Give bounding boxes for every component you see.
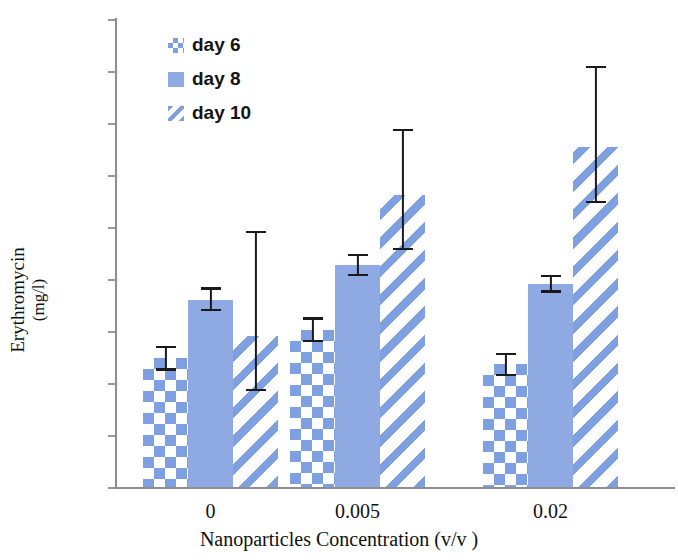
error-bar-cap-bottom (348, 274, 368, 276)
y-axis-title: Erythromycin (mg/l) (0, 150, 56, 450)
error-bar-day-8-0 (211, 287, 212, 311)
legend-item-label: day 6 (192, 34, 241, 56)
error-bar-day-10-0 (256, 231, 257, 391)
y-axis-tick (108, 383, 115, 385)
y-axis-tick (108, 123, 115, 125)
x-axis-tick-label-0.005: 0.005 (283, 500, 433, 523)
error-bar-cap-top (201, 287, 221, 289)
chart-figure: Erythromycin (mg/l) Nanoparticles Concen… (0, 0, 678, 560)
y-axis-title-line2: (mg/l) (29, 247, 49, 353)
error-bar-stem (255, 231, 257, 391)
error-bar-cap-top (496, 353, 516, 355)
legend-item-day-6: day 6 (168, 28, 308, 62)
bar-day-6-0.005 (290, 330, 335, 487)
x-axis-title: Nanoparticles Concentration (v/v ) (0, 528, 678, 551)
error-bar-cap-top (303, 317, 323, 319)
error-bar-cap-bottom (156, 368, 176, 370)
error-bar-stem (357, 254, 359, 276)
error-bar-cap-bottom (246, 389, 266, 391)
error-bar-stem (505, 353, 507, 376)
chart-legend: day 6day 8day 10 (168, 28, 308, 130)
y-axis-tick (108, 175, 115, 177)
y-axis-title-line1: Erythromycin (7, 247, 28, 353)
error-bar-day-8-0.005 (358, 254, 359, 276)
error-bar-day-8-0.02 (551, 275, 552, 293)
error-bar-stem (402, 129, 404, 250)
bar-day-8-0.005 (335, 265, 380, 487)
legend-item-label: day 10 (192, 102, 251, 124)
error-bar-cap-bottom (393, 248, 413, 250)
legend-item-label: day 8 (192, 68, 241, 90)
error-bar-cap-bottom (541, 290, 561, 292)
bar-day-6-0.02 (483, 364, 528, 487)
error-bar-day-6-0.005 (313, 317, 314, 342)
y-axis-tick (108, 19, 115, 21)
error-bar-cap-bottom (201, 309, 221, 311)
x-axis-line (115, 487, 675, 489)
y-axis-tick (108, 331, 115, 333)
legend-item-day-8: day 8 (168, 62, 308, 96)
bar-day-6-0 (143, 358, 188, 487)
error-bar-cap-top (348, 254, 368, 256)
error-bar-stem (165, 346, 167, 371)
error-bar-cap-top (541, 275, 561, 277)
error-bar-day-6-0 (166, 346, 167, 371)
bar-day-8-0 (188, 300, 233, 487)
y-axis-tick (108, 487, 115, 489)
error-bar-day-10-0.005 (403, 129, 404, 250)
legend-swatch-icon (168, 38, 184, 53)
legend-swatch-icon (168, 106, 184, 121)
error-bar-cap-top (246, 231, 266, 233)
error-bar-stem (595, 66, 597, 203)
x-axis-tick-label-0.02: 0.02 (476, 500, 626, 523)
y-axis-tick (108, 71, 115, 73)
error-bar-cap-bottom (303, 340, 323, 342)
error-bar-cap-top (393, 129, 413, 131)
y-axis-line (115, 18, 117, 488)
y-axis-tick (108, 435, 115, 437)
y-axis-tick (108, 279, 115, 281)
error-bar-stem (210, 287, 212, 311)
error-bar-day-10-0.02 (596, 66, 597, 203)
error-bar-cap-bottom (586, 201, 606, 203)
error-bar-cap-bottom (496, 374, 516, 376)
y-axis-tick (108, 227, 115, 229)
error-bar-day-6-0.02 (506, 353, 507, 376)
bar-day-8-0.02 (528, 284, 573, 487)
legend-swatch-icon (168, 72, 184, 87)
legend-item-day-10: day 10 (168, 96, 308, 130)
x-axis-tick-label-0: 0 (136, 500, 286, 523)
error-bar-cap-top (586, 66, 606, 68)
error-bar-cap-top (156, 346, 176, 348)
error-bar-stem (312, 317, 314, 342)
